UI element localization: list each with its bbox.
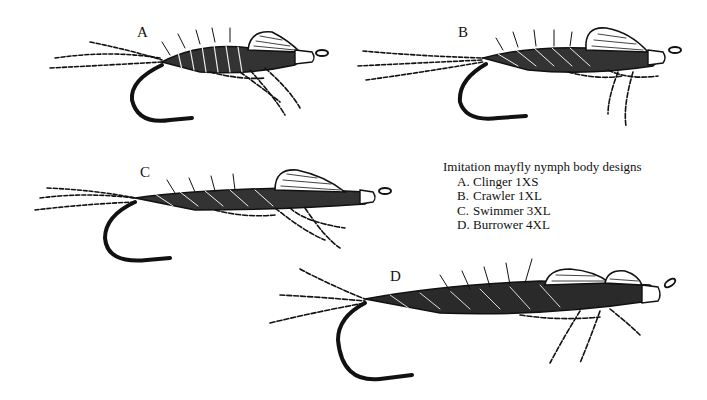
fly-illustration-a-clinger	[50, 20, 330, 130]
legend-letter: B.	[457, 189, 473, 204]
fly-illustration-d-burrower	[270, 255, 690, 390]
legend-item-swimmer: C.Swimmer 3XL	[457, 204, 642, 219]
fly-illustration-b-crawler	[358, 18, 693, 133]
clinger-nymph-icon	[50, 20, 330, 130]
legend-letter: A.	[457, 175, 473, 190]
legend: Imitation mayfly nymph body designs A.Cl…	[443, 160, 642, 233]
crawler-nymph-icon	[358, 18, 693, 133]
legend-list: A.Clinger 1XS B.Crawler 1XL C.Swimmer 3X…	[443, 175, 642, 233]
label-c: C	[140, 164, 150, 181]
burrower-nymph-icon	[270, 255, 690, 390]
legend-item-clinger: A.Clinger 1XS	[457, 175, 642, 190]
legend-text: Burrower 4XL	[473, 217, 550, 232]
legend-letter: D.	[457, 218, 473, 233]
label-b: B	[458, 24, 468, 41]
label-d: D	[390, 268, 401, 285]
legend-letter: C.	[457, 204, 473, 219]
legend-text: Clinger 1XS	[473, 174, 538, 189]
legend-item-crawler: B.Crawler 1XL	[457, 189, 642, 204]
legend-title: Imitation mayfly nymph body designs	[443, 160, 642, 175]
label-a: A	[137, 24, 148, 41]
legend-text: Swimmer 3XL	[473, 203, 551, 218]
legend-text: Crawler 1XL	[473, 188, 542, 203]
legend-item-burrower: D.Burrower 4XL	[457, 218, 642, 233]
